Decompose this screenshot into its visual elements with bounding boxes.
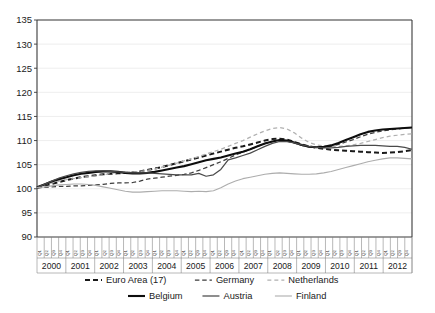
legend-label-belgium: Belgium: [149, 291, 183, 301]
x-quarter-label-2005-Q2: Q2: [188, 250, 193, 256]
x-quarter-label-2001-Q3: Q3: [80, 250, 85, 256]
x-quarter-label-2002-Q2: Q2: [102, 250, 107, 256]
x-quarter-label-2000-Q1: Q1: [37, 250, 42, 256]
x-quarter-label-2003-Q1: Q1: [123, 250, 128, 256]
x-quarter-label-2012-Q1: Q1: [383, 250, 388, 256]
x-quarter-label-2003-Q2: Q2: [130, 250, 135, 256]
series-lines: [37, 128, 412, 193]
x-quarter-label-2008-Q1: Q1: [267, 250, 272, 256]
x-quarter-label-2008-Q4: Q4: [289, 250, 294, 256]
x-quarter-label-2004-Q3: Q3: [166, 250, 171, 256]
y-tick-label-95: 95: [21, 207, 32, 218]
y-tick-label-130: 130: [16, 39, 32, 50]
x-axis-labels: 2000Q1Q2Q3Q42001Q1Q2Q3Q42002Q1Q2Q3Q42003…: [37, 237, 412, 273]
x-year-label-2003: 2003: [128, 261, 147, 271]
x-quarter-label-2006-Q3: Q3: [224, 250, 229, 256]
y-tick-label-100: 100: [16, 183, 32, 194]
line-chart: 9095100105110115120125130135 2000Q1Q2Q3Q…: [0, 0, 435, 313]
legend-label-euro-area-17: Euro Area (17): [106, 275, 166, 285]
x-quarter-label-2010-Q4: Q4: [347, 250, 352, 256]
legend-label-austria: Austria: [223, 291, 253, 301]
x-year-label-2006: 2006: [215, 261, 234, 271]
x-year-label-2005: 2005: [186, 261, 205, 271]
x-quarter-label-2002-Q3: Q3: [109, 250, 114, 256]
y-tick-label-105: 105: [16, 159, 32, 170]
x-quarter-label-2005-Q4: Q4: [202, 250, 207, 256]
y-tick-label-115: 115: [17, 111, 32, 122]
x-quarter-label-2005-Q3: Q3: [195, 250, 200, 256]
x-quarter-label-2001-Q1: Q1: [65, 250, 70, 256]
x-year-label-2002: 2002: [100, 261, 119, 271]
x-quarter-label-2000-Q4: Q4: [58, 250, 63, 256]
x-quarter-label-2009-Q3: Q3: [311, 250, 316, 256]
x-quarter-label-2006-Q4: Q4: [231, 250, 236, 256]
x-quarter-label-2009-Q4: Q4: [318, 250, 323, 256]
x-quarter-label-2010-Q1: Q1: [325, 250, 330, 256]
chart-legend: Euro Area (17)GermanyNetherlandsBelgiumA…: [85, 275, 339, 301]
plot-frame: [37, 20, 412, 237]
x-year-label-2008: 2008: [273, 261, 292, 271]
x-quarter-label-2009-Q1: Q1: [296, 250, 301, 256]
y-tick-label-110: 110: [17, 135, 32, 146]
y-tick-label-90: 90: [21, 231, 32, 242]
y-tick-label-135: 135: [16, 14, 32, 25]
x-quarter-label-2012-Q4: Q4: [404, 250, 409, 256]
x-year-label-2011: 2011: [359, 261, 378, 271]
x-quarter-label-2012-Q3: Q3: [397, 250, 402, 256]
x-quarter-label-2011-Q4: Q4: [376, 250, 381, 256]
x-quarter-label-2003-Q3: Q3: [138, 250, 143, 256]
x-quarter-label-2006-Q1: Q1: [210, 250, 215, 256]
x-quarter-label-2004-Q1: Q1: [152, 250, 157, 256]
x-quarter-label-2005-Q1: Q1: [181, 250, 186, 256]
x-quarter-label-2004-Q4: Q4: [174, 250, 179, 256]
x-year-label-2007: 2007: [244, 261, 263, 271]
legend-label-finland: Finland: [296, 291, 327, 301]
x-year-label-2004: 2004: [157, 261, 176, 271]
x-quarter-label-2012-Q2: Q2: [390, 250, 395, 256]
gridlines: [37, 20, 412, 213]
x-quarter-label-2004-Q2: Q2: [159, 250, 164, 256]
series-line-belgium: [37, 128, 412, 188]
y-tick-label-120: 120: [16, 87, 32, 98]
legend-label-germany: Germany: [216, 275, 255, 285]
x-year-label-2001: 2001: [71, 261, 90, 271]
x-year-label-2009: 2009: [301, 261, 320, 271]
x-quarter-label-2007-Q4: Q4: [260, 250, 265, 256]
x-quarter-label-2001-Q4: Q4: [87, 250, 92, 256]
x-year-label-2000: 2000: [42, 261, 61, 271]
x-quarter-label-2010-Q2: Q2: [332, 250, 337, 256]
chart-container: 9095100105110115120125130135 2000Q1Q2Q3Q…: [0, 0, 435, 313]
legend-label-netherlands: Netherlands: [288, 275, 338, 285]
x-quarter-label-2001-Q2: Q2: [73, 250, 78, 256]
x-quarter-label-2010-Q3: Q3: [339, 250, 344, 256]
x-quarter-label-2008-Q2: Q2: [275, 250, 280, 256]
x-quarter-label-2006-Q2: Q2: [217, 250, 222, 256]
x-quarter-label-2007-Q3: Q3: [253, 250, 258, 256]
x-quarter-label-2002-Q1: Q1: [94, 250, 99, 256]
x-quarter-label-2007-Q1: Q1: [239, 250, 244, 256]
x-quarter-label-2011-Q1: Q1: [354, 250, 359, 256]
x-quarter-label-2011-Q3: Q3: [368, 250, 373, 256]
y-axis-tick-labels: 9095100105110115120125130135: [16, 14, 37, 242]
y-tick-label-125: 125: [16, 63, 32, 74]
x-year-label-2012: 2012: [388, 261, 407, 271]
x-quarter-label-2007-Q2: Q2: [246, 250, 251, 256]
x-year-label-2010: 2010: [330, 261, 349, 271]
x-quarter-label-2009-Q2: Q2: [303, 250, 308, 256]
x-quarter-label-2003-Q4: Q4: [145, 250, 150, 256]
x-quarter-label-2000-Q3: Q3: [51, 250, 56, 256]
x-quarter-label-2011-Q2: Q2: [361, 250, 366, 256]
x-quarter-label-2000-Q2: Q2: [44, 250, 49, 256]
x-quarter-label-2008-Q3: Q3: [282, 250, 287, 256]
x-quarter-label-2002-Q4: Q4: [116, 250, 121, 256]
